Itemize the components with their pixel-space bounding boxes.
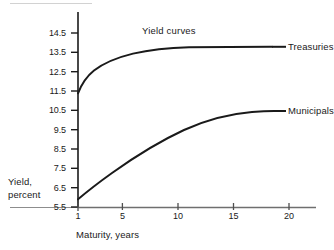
y-tick-label-9-5: 9.5 xyxy=(40,125,66,135)
y-tick-label-10-5: 10.5 xyxy=(36,105,66,115)
y-tick-label-5-5: 5.5 xyxy=(40,202,66,212)
series-line-municipals xyxy=(78,111,274,199)
y-tick-label-6-5: 6.5 xyxy=(40,183,66,193)
series-label-municipals: Municipals xyxy=(288,105,334,116)
x-tick-label-15: 15 xyxy=(224,211,244,221)
y-tick-label-13-5: 13.5 xyxy=(36,47,66,57)
y-axis-ticks xyxy=(71,33,78,207)
y-tick-label-12-5: 12.5 xyxy=(36,67,66,77)
x-tick-label-1: 1 xyxy=(68,211,88,221)
y-tick-label-8-5: 8.5 xyxy=(40,144,66,154)
x-tick-label-5: 5 xyxy=(112,211,132,221)
series-line-treasuries xyxy=(78,47,272,94)
chart-title: Yield curves xyxy=(142,25,196,36)
y-tick-label-14-5: 14.5 xyxy=(36,28,66,38)
x-tick-label-20: 20 xyxy=(279,211,299,221)
x-axis-title: Maturity, years xyxy=(76,229,139,240)
x-tick-label-10: 10 xyxy=(168,211,188,221)
y-tick-label-7-5: 7.5 xyxy=(40,163,66,173)
y-tick-label-11-5: 11.5 xyxy=(36,86,66,96)
series-label-treasuries: Treasuries xyxy=(288,41,334,52)
